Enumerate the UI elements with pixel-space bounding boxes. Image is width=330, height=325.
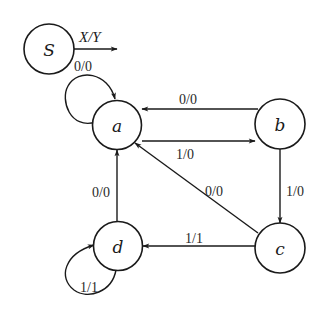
edge-label-a-a: 0/0 [74, 59, 92, 74]
edge-label-d-a: 0/0 [92, 185, 110, 200]
transition-a-b: 1/0 [142, 141, 255, 162]
transition-d-a: 0/0 [92, 150, 117, 222]
edge-label-d-d: 1/1 [80, 280, 98, 295]
state-label-d: d [113, 237, 124, 257]
edge-label-b-a: 0/0 [179, 92, 197, 107]
transition-b-c: 1/0 [280, 149, 304, 223]
edge-c-a [135, 143, 258, 233]
transition-c-a: 0/0 [135, 143, 258, 233]
legend-arrow: X/Y [74, 29, 117, 49]
state-d: d [94, 222, 143, 271]
state-a: a [93, 101, 142, 150]
edge-label-a-b: 1/0 [176, 147, 194, 162]
state-label-s: S [43, 40, 55, 60]
state-label-b: b [275, 115, 286, 135]
state-label-a: a [112, 116, 122, 136]
state-b: b [255, 99, 305, 149]
transition-c-d: 1/1 [143, 231, 255, 246]
state-c: c [255, 223, 305, 273]
edge-label-c-a: 0/0 [205, 184, 223, 199]
legend-label-xy: X/Y [78, 29, 102, 45]
legend-state-s: S [24, 24, 74, 74]
transition-b-a: 0/0 [142, 92, 258, 109]
state-label-c: c [275, 239, 285, 259]
edge-label-b-c: 1/0 [286, 184, 304, 199]
state-diagram: S X/Y 0/0 0/0 1/0 1/0 0/0 1/1 0/0 [0, 0, 330, 325]
edge-label-c-d: 1/1 [185, 231, 203, 246]
